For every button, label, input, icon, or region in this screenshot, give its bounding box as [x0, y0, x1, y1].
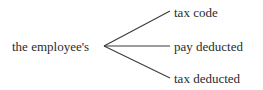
branch-label-pay-deducted: pay deducted: [174, 40, 243, 53]
stem-label: the employee's: [12, 40, 89, 53]
branch-line-tax-code: [104, 11, 170, 46]
branch-label-tax-deducted: tax deducted: [174, 72, 240, 85]
branch-line-tax-deducted: [104, 46, 170, 78]
branch-label-tax-code: tax code: [174, 6, 218, 19]
branching-diagram: the employee's tax code pay deducted tax…: [0, 0, 263, 90]
